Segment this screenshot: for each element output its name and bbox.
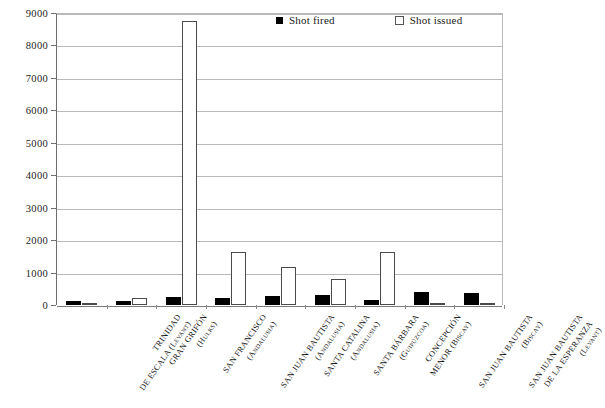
x-axis-label: SAN FRANCISCO(Andalusia) <box>221 312 279 382</box>
bar-shot-fired <box>166 297 181 305</box>
bar-group <box>256 14 306 305</box>
bar-group <box>454 14 504 305</box>
y-tick-label-4000: 4000 <box>2 170 48 181</box>
bar-shot-issued <box>82 303 97 305</box>
bar-shot-fired <box>315 295 330 305</box>
bar-group <box>156 14 206 305</box>
y-tick-label-3000: 3000 <box>2 202 48 213</box>
x-axis-labels: TRINIDADDE ESCALA (Levant)GRAN GRIFÓN(Hu… <box>0 308 512 408</box>
bar-group <box>206 14 256 305</box>
bar-shot-issued <box>480 303 495 305</box>
bar-shot-fired <box>265 296 280 305</box>
bar-group <box>57 14 107 305</box>
y-tick-label-6000: 6000 <box>2 105 48 116</box>
bar-group <box>305 14 355 305</box>
bar-shot-fired <box>215 298 230 305</box>
y-tick-label-1000: 1000 <box>2 267 48 278</box>
gridline-0 <box>57 306 502 307</box>
bar-shot-issued <box>331 279 346 305</box>
bar-shot-issued <box>132 298 147 305</box>
bar-shot-issued <box>182 21 197 305</box>
bar-shot-issued <box>430 303 445 305</box>
bar-shot-fired <box>364 300 379 306</box>
bar-shot-fired <box>116 301 131 305</box>
bar-shot-fired <box>66 301 81 305</box>
bar-shot-fired <box>414 292 429 305</box>
plot-area <box>56 13 503 305</box>
y-tick-label-8000: 8000 <box>2 40 48 51</box>
y-tick-label-2000: 2000 <box>2 235 48 246</box>
bar-group <box>405 14 455 305</box>
y-tick-label-9000: 9000 <box>2 8 48 19</box>
bar-shot-fired <box>464 293 479 305</box>
bar-shot-issued <box>281 267 296 305</box>
bar-shot-issued <box>231 252 246 305</box>
bar-group <box>107 14 157 305</box>
bar-shot-issued <box>380 252 395 305</box>
y-tick-mark-0 <box>51 305 56 306</box>
y-tick-label-5000: 5000 <box>2 137 48 148</box>
bar-group <box>355 14 405 305</box>
y-tick-label-7000: 7000 <box>2 72 48 83</box>
bars-layer <box>57 14 502 305</box>
